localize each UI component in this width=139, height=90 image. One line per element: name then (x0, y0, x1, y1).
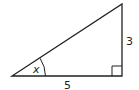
angle-arc (40, 58, 45, 76)
triangle (12, 4, 122, 76)
angle-label: x (32, 63, 40, 76)
height-label: 3 (126, 35, 133, 48)
base-label: 5 (64, 79, 71, 90)
right-angle-marker (112, 66, 122, 76)
right-triangle-diagram: x 5 3 (0, 0, 139, 90)
